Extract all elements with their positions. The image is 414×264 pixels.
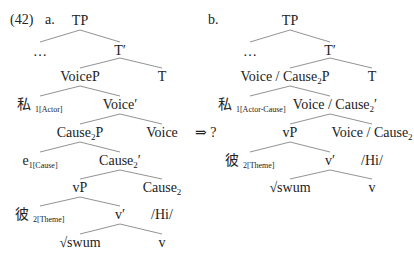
node-empty-cause: e1[Cause] [22, 153, 57, 174]
node-subject: 私 1[Actor-Cause] [218, 97, 285, 118]
node-voice-bar: Voice′ [103, 97, 138, 113]
node-morpheme: /Hi/ [151, 207, 173, 223]
node-voice-cause2: Voice / Cause2 [331, 125, 412, 145]
example-number: (42) [10, 12, 33, 28]
node-tp: TP [72, 13, 88, 29]
tree-a-label: a. [45, 12, 55, 28]
node-t: T [368, 69, 377, 85]
node-root: √swum [269, 180, 310, 196]
node-cause2-bar: Cause2′ [99, 153, 141, 173]
node-object: 彼 2[Theme] [15, 207, 64, 228]
node-voice-cause2-bar: Voice / Cause2′ [293, 97, 377, 117]
arrow-question: ⇒ ? [195, 125, 216, 141]
node-voice-cause2p: Voice / Cause2P [240, 69, 329, 89]
node-ellipsis: … [33, 44, 47, 60]
node-cause2: Cause2 [143, 180, 182, 200]
node-morpheme: /Hi/ [361, 153, 383, 169]
tree-b-label: b. [208, 12, 219, 28]
node-subject: 私 1[Actor] [17, 97, 62, 118]
node-v-bar: v′ [115, 207, 125, 223]
node-voice: Voice [146, 125, 178, 141]
node-t-bar: T′ [324, 43, 336, 59]
node-object: 彼 2[Theme] [225, 153, 274, 174]
node-voicep: VoiceP [60, 69, 99, 85]
node-ellipsis: … [243, 44, 257, 60]
node-t: T [158, 69, 167, 85]
node-root: √swum [59, 235, 100, 251]
node-tp: TP [282, 13, 298, 29]
node-vp: vP [283, 125, 298, 141]
node-cause2p: Cause2P [57, 125, 104, 145]
node-v-bar: v′ [325, 153, 335, 169]
node-v: v [369, 180, 376, 196]
node-vp: vP [73, 180, 88, 196]
node-v: v [159, 235, 166, 251]
node-t-bar: T′ [114, 43, 126, 59]
